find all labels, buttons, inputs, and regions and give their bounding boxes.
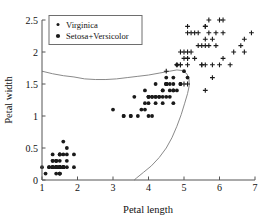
data-point-virginica bbox=[203, 43, 208, 48]
data-point-setosa-versicolor bbox=[154, 95, 158, 99]
y-axis-title: Petal width bbox=[3, 75, 14, 123]
data-point-setosa-versicolor bbox=[51, 159, 55, 163]
data-point-setosa-versicolor bbox=[143, 101, 147, 105]
legend-label-virginica: Virginica bbox=[66, 20, 98, 30]
data-point-setosa-versicolor bbox=[147, 114, 151, 118]
data-point-virginica bbox=[242, 50, 247, 55]
data-point-setosa-versicolor bbox=[129, 114, 133, 118]
data-point-virginica bbox=[221, 30, 226, 35]
data-point-setosa-versicolor bbox=[72, 165, 76, 169]
x-axis-tick-labels: 1234567 bbox=[40, 182, 258, 193]
series-setosa-versicolor-points bbox=[40, 63, 189, 176]
data-point-setosa-versicolor bbox=[111, 108, 115, 112]
data-point-setosa-versicolor bbox=[143, 108, 147, 112]
x-tick-label: 7 bbox=[253, 182, 258, 193]
x-tick-label: 4 bbox=[146, 182, 151, 193]
data-point-virginica bbox=[203, 88, 208, 93]
data-point-virginica bbox=[178, 50, 183, 55]
data-point-setosa-versicolor bbox=[150, 95, 154, 99]
data-point-virginica bbox=[217, 62, 222, 67]
data-point-setosa-versicolor bbox=[143, 89, 147, 93]
data-point-setosa-versicolor bbox=[122, 114, 126, 118]
data-point-setosa-versicolor bbox=[154, 82, 158, 86]
y-tick-label: 0 bbox=[33, 175, 38, 186]
legend-marker-virginica-icon bbox=[57, 23, 60, 26]
data-point-virginica bbox=[210, 75, 215, 80]
data-point-virginica bbox=[249, 30, 254, 35]
data-point-virginica bbox=[238, 43, 243, 48]
data-point-setosa-versicolor bbox=[161, 95, 165, 99]
data-point-virginica bbox=[214, 30, 219, 35]
x-tick-label: 3 bbox=[111, 182, 116, 193]
y-axis-tick-labels: 00.511.522.5 bbox=[26, 15, 39, 186]
x-tick-label: 5 bbox=[182, 182, 187, 193]
data-point-virginica bbox=[182, 56, 187, 61]
data-point-setosa-versicolor bbox=[44, 172, 48, 176]
data-point-virginica bbox=[214, 43, 219, 48]
data-point-setosa-versicolor bbox=[65, 159, 69, 163]
data-point-virginica bbox=[206, 18, 211, 23]
data-point-virginica bbox=[228, 62, 233, 67]
data-point-virginica bbox=[210, 37, 215, 42]
decision-boundary-curve bbox=[42, 70, 189, 180]
y-tick-label: 2 bbox=[33, 47, 38, 58]
data-point-setosa-versicolor bbox=[140, 108, 144, 112]
data-point-setosa-versicolor bbox=[58, 153, 62, 157]
data-point-setosa-versicolor bbox=[168, 95, 172, 99]
data-point-setosa-versicolor bbox=[157, 95, 161, 99]
data-point-setosa-versicolor bbox=[61, 140, 65, 144]
data-point-setosa-versicolor bbox=[182, 69, 186, 73]
data-point-virginica bbox=[231, 50, 236, 55]
x-tick-label: 2 bbox=[75, 182, 80, 193]
y-tick-label: 0.5 bbox=[26, 143, 39, 154]
data-point-virginica bbox=[192, 56, 197, 61]
data-point-virginica bbox=[196, 43, 201, 48]
data-point-setosa-versicolor bbox=[168, 82, 172, 86]
data-point-setosa-versicolor bbox=[65, 165, 69, 169]
legend: Virginica Setosa+Versicolor bbox=[49, 16, 142, 45]
data-point-setosa-versicolor bbox=[171, 82, 175, 86]
data-point-setosa-versicolor bbox=[164, 95, 168, 99]
data-point-setosa-versicolor bbox=[171, 76, 175, 80]
data-point-setosa-versicolor bbox=[132, 95, 136, 99]
data-point-virginica bbox=[221, 56, 226, 61]
data-point-virginica bbox=[210, 62, 215, 67]
data-point-setosa-versicolor bbox=[147, 101, 151, 105]
x-tick-label: 6 bbox=[217, 182, 222, 193]
y-tick-label: 1 bbox=[33, 111, 38, 122]
data-point-virginica bbox=[206, 30, 211, 35]
data-point-setosa-versicolor bbox=[58, 159, 62, 163]
data-point-setosa-versicolor bbox=[51, 165, 55, 169]
data-point-setosa-versicolor bbox=[54, 165, 58, 169]
scatter-plot-figure: 1234567 00.511.522.5 Petal length Petal … bbox=[0, 0, 265, 219]
data-point-virginica bbox=[221, 18, 226, 23]
data-point-setosa-versicolor bbox=[171, 101, 175, 105]
data-point-virginica bbox=[189, 30, 194, 35]
series-virginica-points bbox=[164, 18, 254, 93]
data-point-virginica bbox=[196, 30, 201, 35]
data-point-virginica bbox=[199, 62, 204, 67]
data-point-setosa-versicolor bbox=[47, 165, 51, 169]
y-tick-label: 2.5 bbox=[26, 15, 39, 26]
data-point-virginica bbox=[242, 37, 247, 42]
data-point-setosa-versicolor bbox=[54, 172, 58, 176]
data-point-virginica bbox=[185, 24, 190, 29]
data-point-virginica bbox=[164, 69, 169, 74]
data-point-setosa-versicolor bbox=[161, 101, 165, 105]
legend-marker-setosa-versicolor-icon bbox=[56, 34, 60, 38]
data-point-setosa-versicolor bbox=[168, 89, 172, 93]
data-point-setosa-versicolor bbox=[61, 165, 65, 169]
data-point-setosa-versicolor bbox=[164, 76, 168, 80]
data-point-setosa-versicolor bbox=[72, 153, 76, 157]
data-point-setosa-versicolor bbox=[175, 89, 179, 93]
data-point-setosa-versicolor bbox=[58, 172, 62, 176]
data-point-setosa-versicolor bbox=[51, 153, 55, 157]
data-point-setosa-versicolor bbox=[147, 95, 151, 99]
data-point-setosa-versicolor bbox=[65, 153, 69, 157]
data-point-setosa-versicolor bbox=[136, 114, 140, 118]
data-point-setosa-versicolor bbox=[61, 153, 65, 157]
data-point-virginica bbox=[189, 50, 194, 55]
data-point-setosa-versicolor bbox=[186, 76, 190, 80]
x-tick-label: 1 bbox=[40, 182, 45, 193]
data-point-virginica bbox=[185, 62, 190, 67]
